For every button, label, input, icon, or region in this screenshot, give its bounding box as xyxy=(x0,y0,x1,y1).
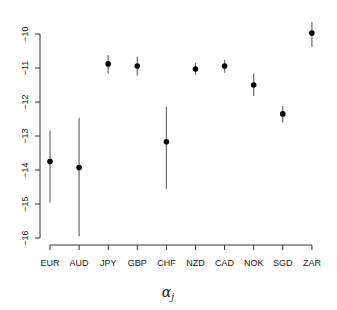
y-tick-label: −10 xyxy=(20,26,30,41)
data-series xyxy=(47,22,315,236)
data-point xyxy=(47,159,53,165)
data-point-group xyxy=(164,107,170,189)
x-tick-label: SGD xyxy=(273,258,293,268)
x-tick-label: AUD xyxy=(70,258,90,268)
data-point-group xyxy=(309,22,315,47)
x-axis-title: αj xyxy=(162,284,174,302)
data-point-group xyxy=(105,55,111,74)
data-point-group xyxy=(76,118,82,237)
data-point xyxy=(164,139,170,145)
y-axis: −16−15−14−13−12−11−10 xyxy=(20,26,40,245)
x-tick-label: NOK xyxy=(244,258,264,268)
x-tick-label: JPY xyxy=(100,258,117,268)
data-point xyxy=(105,61,111,67)
data-point xyxy=(76,165,82,171)
data-point-group xyxy=(280,106,286,123)
x-tick-label: ZAR xyxy=(303,258,322,268)
y-tick-label: −16 xyxy=(20,230,30,245)
data-point-group xyxy=(193,63,199,75)
data-point-group xyxy=(47,131,53,203)
data-point xyxy=(309,30,315,36)
y-tick-label: −13 xyxy=(20,128,30,143)
y-tick-label: −11 xyxy=(20,61,30,76)
data-point xyxy=(222,63,228,69)
data-point xyxy=(193,66,199,72)
data-point-group xyxy=(135,57,141,76)
x-tick-label: EUR xyxy=(40,258,60,268)
x-tick-label: GBP xyxy=(128,258,147,268)
data-point xyxy=(135,63,141,69)
x-tick-label: NZD xyxy=(186,258,205,268)
y-tick-label: −14 xyxy=(20,162,30,177)
data-point-group xyxy=(222,60,228,73)
data-point-group xyxy=(251,74,257,96)
y-tick-label: −15 xyxy=(20,196,30,211)
x-tick-label: CAD xyxy=(215,258,235,268)
data-point xyxy=(251,82,257,88)
x-tick-label: CHF xyxy=(157,258,176,268)
y-tick-label: −12 xyxy=(20,94,30,109)
data-point xyxy=(280,111,286,117)
x-axis: EURAUDJPYGBPCHFNZDCADNOKSGDZAR xyxy=(40,245,321,268)
chart: −16−15−14−13−12−11−10 EURAUDJPYGBPCHFNZD… xyxy=(0,0,337,310)
